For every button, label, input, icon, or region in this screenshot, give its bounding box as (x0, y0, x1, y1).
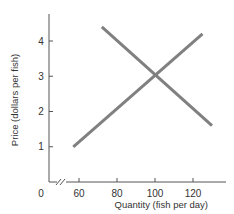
y-ticks: 1234 (38, 36, 53, 153)
x-tick-label: 120 (185, 188, 202, 199)
x-tick-label: 60 (73, 188, 85, 199)
y-tick-label: 3 (38, 71, 44, 82)
supply-curve (73, 34, 202, 147)
x-tick-label: 100 (147, 188, 164, 199)
axis-break-icon (56, 178, 66, 186)
x-ticks: 6080100120 (73, 178, 201, 199)
y-tick-label: 4 (38, 36, 44, 47)
y-tick-label: 1 (38, 141, 44, 152)
origin-label: 0 (38, 188, 44, 199)
supply-demand-chart: 1234 6080100120 0 Quantity (fish per day… (0, 0, 234, 214)
y-axis-title: Price (dollars per fish) (9, 54, 20, 146)
series-group (73, 27, 212, 147)
x-tick-label: 80 (111, 188, 123, 199)
x-axis-title: Quantity (fish per day) (115, 199, 208, 210)
y-tick-label: 2 (38, 106, 44, 117)
